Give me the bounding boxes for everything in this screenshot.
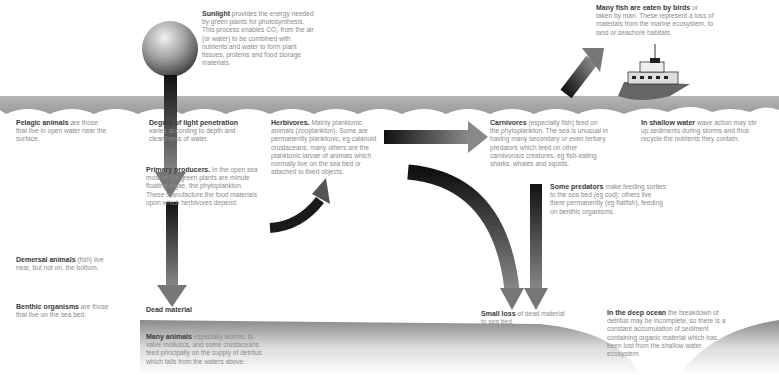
label-many-animals: Many animals especially worms, bi-valve … <box>146 333 270 366</box>
label-birds: Many fish are eaten by birds or taken by… <box>596 4 714 37</box>
label-pelagic: Pelagic animals are those that live in o… <box>16 119 108 144</box>
label-carnivores: Carnivores (especially fish) feed on the… <box>490 119 608 168</box>
label-benthic: Benthic organisms are those that live on… <box>16 303 116 319</box>
label-herbivores: Herbivores. Mainly planktonic animals (z… <box>271 119 383 176</box>
sun-sphere-icon <box>142 21 198 77</box>
label-primary-producers: Primary producers. In the open sea most … <box>146 166 262 207</box>
label-small-loss: Small loss of dead material to sea bed. <box>481 310 571 326</box>
label-shallow-water: In shallow water wave action may stir up… <box>641 119 759 144</box>
label-dead-material: Dead material <box>146 306 226 314</box>
ship-icon <box>618 44 690 100</box>
label-deep-ocean: In the deep ocean the breakdown of detri… <box>607 309 731 358</box>
label-light-penetration: Degree of light penetration varies accor… <box>149 119 249 144</box>
wave-surface <box>0 96 779 114</box>
label-some-predators: Some predators make feeding sorties to t… <box>550 183 666 216</box>
label-sunlight: Sunlight provides the energy needed by g… <box>202 10 314 67</box>
label-demersal: Demersal animals (fish) live near, but n… <box>16 256 116 272</box>
marine-ecosystem-diagram: Sunlight provides the energy needed by g… <box>0 0 779 375</box>
